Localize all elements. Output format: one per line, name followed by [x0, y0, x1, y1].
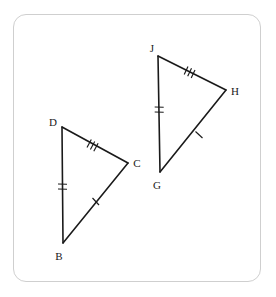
vertex-label-J: J [150, 42, 155, 54]
side-JH-line [158, 56, 226, 90]
vertex-label-H: H [231, 85, 239, 97]
geometry-figure: D B C J G H [0, 0, 276, 297]
vertex-label-D: D [49, 116, 57, 128]
vertex-label-C: C [133, 157, 140, 169]
side-JG-line [158, 56, 160, 172]
vertex-label-G: G [153, 179, 161, 191]
side-DB-line [62, 127, 63, 243]
vertex-label-B: B [55, 250, 62, 262]
side-JH-tick-marks [184, 67, 195, 79]
side-GH-tick-marks [196, 132, 203, 139]
side-BC-line [63, 163, 128, 243]
triangles-canvas: D B C J G H [0, 0, 276, 297]
side-DC-line [62, 127, 128, 163]
triangle-jgh: J G H [150, 42, 239, 191]
tick-mark [196, 132, 203, 139]
side-GH-line [160, 90, 226, 172]
triangle-dbc: D B C [49, 116, 141, 262]
